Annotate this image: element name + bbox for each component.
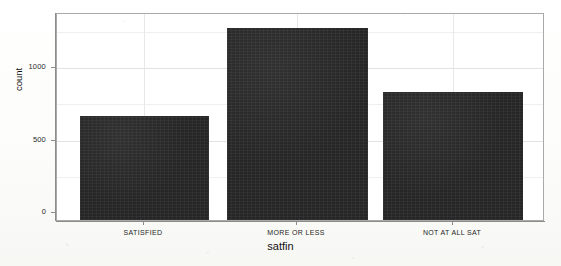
x-axis-line <box>56 221 545 222</box>
bar-not-at-all-sat[interactable] <box>383 92 523 220</box>
y-tick-mark-0 <box>51 212 56 213</box>
bar-more-or-less[interactable] <box>227 28 368 220</box>
y-tick-label-1000: 1000 <box>29 62 47 71</box>
x-tick-mark-not-at-all-sat <box>452 221 453 225</box>
plot-panel <box>56 13 544 221</box>
bar-chart-figure: 1000 500 0 SATISFIED MORE OR LESS NOT AT… <box>0 0 561 266</box>
bar-satisfied[interactable] <box>80 116 209 220</box>
x-axis-title: satfin <box>0 240 561 252</box>
y-tick-label-500: 500 <box>33 135 46 144</box>
y-axis-line <box>55 13 56 221</box>
x-tick-label-not-at-all-sat: NOT AT ALL SAT <box>423 229 481 236</box>
y-tick-mark-500 <box>51 140 56 141</box>
x-tick-mark-satisfied <box>143 221 144 225</box>
x-tick-label-satisfied: SATISFIED <box>124 229 163 236</box>
y-axis-title: count <box>13 68 24 91</box>
x-tick-mark-more-or-less <box>296 221 297 225</box>
y-tick-label-0: 0 <box>42 207 46 216</box>
x-tick-label-more-or-less: MORE OR LESS <box>267 229 325 236</box>
y-tick-mark-1000 <box>51 67 56 68</box>
